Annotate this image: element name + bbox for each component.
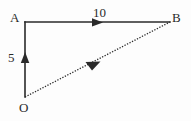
- arrowhead-o-to-a: [21, 52, 30, 63]
- arrowhead-o-to-b: [86, 62, 101, 71]
- vertex-label-a: A: [10, 11, 19, 24]
- diagram-canvas: A B O 10 5: [0, 0, 191, 121]
- edge-length-label-ab: 10: [93, 6, 106, 19]
- vertex-label-o: O: [19, 101, 28, 114]
- vertex-label-b: B: [172, 11, 181, 24]
- edge-length-label-oa: 5: [8, 51, 15, 64]
- edge-o-to-b: [25, 22, 170, 97]
